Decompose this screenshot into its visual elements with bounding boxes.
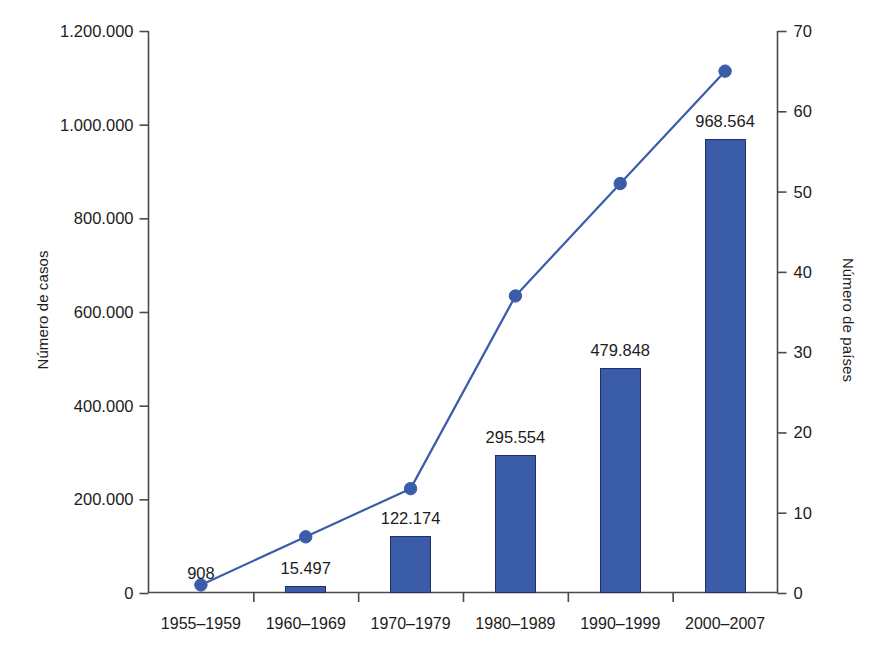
bar-value-label: 15.497 [253, 560, 358, 577]
right-tick-label: 70 [794, 23, 812, 40]
bar-value-label: 295.554 [463, 429, 568, 446]
line-marker [719, 65, 731, 77]
x-tick-label: 1990–1999 [568, 616, 673, 632]
x-tick-label: 1980–1989 [463, 616, 568, 632]
line-marker [404, 482, 416, 494]
line-marker [300, 531, 312, 543]
line-series-countries [201, 71, 725, 585]
bar [285, 586, 326, 593]
x-tick-label: 2000–2007 [673, 616, 778, 632]
left-tick-label: 1.000.000 [60, 117, 133, 134]
x-tick-label: 1960–1969 [253, 616, 358, 632]
x-tick-label: 1955–1959 [149, 616, 254, 632]
chart-figure: Número de casos Número de países 90815.4… [0, 0, 871, 657]
bar [705, 139, 746, 593]
bar [495, 455, 536, 593]
bar-value-label: 479.848 [568, 342, 673, 359]
left-tick-label: 800.000 [74, 210, 134, 227]
x-tick-label: 1970–1979 [358, 616, 463, 632]
line-marker [509, 290, 521, 302]
bar-value-label: 908 [149, 565, 254, 582]
left-tick-label: 0 [124, 585, 133, 602]
line-marker [614, 177, 626, 189]
right-tick-label: 40 [794, 264, 812, 281]
left-axis-ticks [140, 32, 149, 594]
bar [600, 368, 641, 593]
bar-value-label: 122.174 [358, 510, 463, 527]
right-tick-label: 50 [794, 184, 812, 201]
right-tick-label: 60 [794, 103, 812, 120]
right-tick-label: 20 [794, 424, 812, 441]
left-tick-label: 600.000 [74, 304, 134, 321]
right-tick-label: 0 [794, 585, 803, 602]
country-trend-line [201, 71, 725, 585]
x-axis-ticks [254, 593, 673, 602]
bar-value-label: 968.564 [673, 113, 778, 130]
left-tick-label: 200.000 [74, 491, 134, 508]
bar [390, 536, 431, 593]
right-axis-ticks [778, 32, 787, 594]
line-series-markers [195, 65, 732, 591]
right-tick-label: 10 [794, 505, 812, 522]
left-tick-label: 1.200.000 [60, 23, 133, 40]
right-tick-label: 30 [794, 344, 812, 361]
left-tick-label: 400.000 [74, 398, 134, 415]
